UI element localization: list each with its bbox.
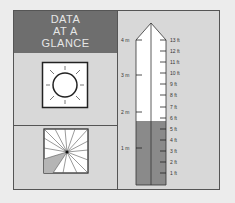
- feet-label-6: 6 ft: [170, 115, 177, 121]
- feet-label-8: 8 ft: [170, 92, 177, 98]
- header-title: DATA AT A GLANCE: [14, 11, 117, 53]
- feet-label-7: 7 ft: [170, 104, 177, 110]
- header-line-3: GLANCE: [14, 38, 117, 50]
- gauge-column: 4 m 3 m 2 m 1 m 13 ft 12 ft 11 ft 10 ft …: [118, 11, 221, 189]
- wheel-cell: [14, 125, 117, 191]
- feet-label-9: 9 ft: [170, 81, 177, 87]
- metric-label-4m: 4 m: [121, 37, 129, 43]
- left-column: DATA AT A GLANCE: [14, 11, 118, 189]
- feet-label-5: 5 ft: [170, 126, 177, 132]
- metric-label-3m: 3 m: [121, 72, 129, 78]
- metric-label-2m: 2 m: [121, 109, 129, 115]
- feet-label-12: 12 ft: [170, 48, 180, 54]
- feet-label-3: 3 ft: [170, 148, 177, 154]
- feet-label-4: 4 ft: [170, 137, 177, 143]
- data-at-a-glance-panel: DATA AT A GLANCE: [13, 10, 220, 190]
- metric-label-1m: 1 m: [121, 145, 129, 151]
- feet-label-10: 10 ft: [170, 70, 180, 76]
- feet-label-1: 1 ft: [170, 170, 177, 176]
- feet-label-2: 2 ft: [170, 159, 177, 165]
- sun-cell: [14, 53, 117, 126]
- sun-icon: [41, 61, 89, 109]
- feet-label-11: 11 ft: [170, 59, 179, 65]
- compass-wheel-icon: [43, 128, 89, 174]
- feet-label-13: 13 ft: [170, 37, 180, 43]
